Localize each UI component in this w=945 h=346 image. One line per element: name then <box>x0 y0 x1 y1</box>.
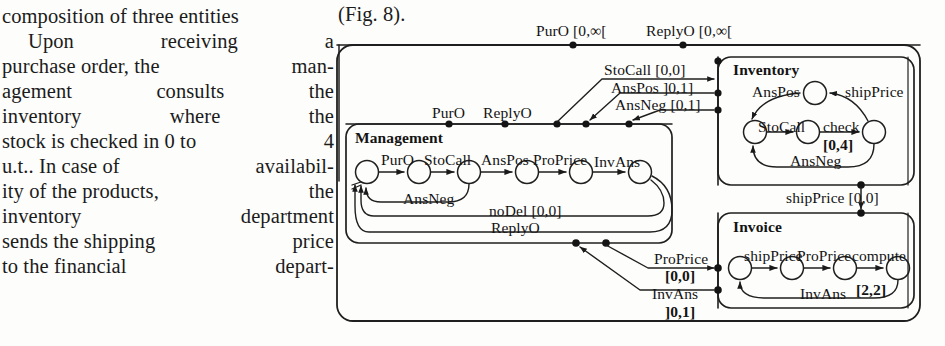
text-word: availabil- <box>256 156 334 176</box>
label-inv2-t-compute-interval: [2,2] <box>856 281 886 299</box>
label-shipprice-connector: shipPrice [0,0] <box>786 189 879 207</box>
component-title-invoice: Invoice <box>733 218 782 236</box>
label-inv-t-check: check <box>823 118 860 136</box>
text-line-7: u.t.. In case of availabil- <box>2 156 334 176</box>
text-word: receiving <box>161 31 238 51</box>
transition-interval: [0,0] <box>531 202 561 219</box>
text-word: man- <box>291 56 334 76</box>
text-word: u.t.. In case of <box>2 156 120 176</box>
label-bus-replyo: ReplyO <box>483 104 532 122</box>
text-line-content: composition of three entities <box>2 5 239 27</box>
label-inv2-t-compute: compute <box>852 247 906 265</box>
label-mgmt-t-ansneg: AnsNeg <box>403 190 454 208</box>
text-line-1: composition of three entities <box>2 6 334 26</box>
label-mgmt-t-puro: PurO <box>381 151 414 169</box>
label-mgmt-t-nodel: noDel [0,0] <box>489 202 562 220</box>
label-proprice-connector-interval: [0,0] <box>665 267 695 285</box>
transition-name: noDel <box>489 202 527 219</box>
label-replyo-outer-port: ReplyO [0,∞[ <box>646 22 732 40</box>
label-mgmt-t-proprice: ProPrice <box>533 151 587 169</box>
text-word: the <box>309 181 334 201</box>
label-puro-outer-port: PurO [0,∞[ <box>536 22 607 40</box>
text-line-2: Upon receiving a <box>2 31 334 51</box>
label-inv2-t-invans: InvAns <box>800 285 846 303</box>
text-word: the <box>309 81 334 101</box>
text-line-9: inventory department <box>2 206 334 226</box>
text-word: agement <box>2 81 72 101</box>
page-root: composition of three entities Upon recei… <box>0 0 945 346</box>
text-word: ity of the products, <box>2 181 159 201</box>
text-word: inventory <box>2 206 81 226</box>
figure-reference: (Fig. 8). <box>338 4 406 24</box>
label-anspos-connector: AnsPos ]0,1] <box>611 79 693 97</box>
text-word: depart- <box>275 256 334 276</box>
label-inv-t-shipprice: shipPrice <box>845 83 904 101</box>
text-word: to the financial <box>2 256 127 276</box>
component-title-management: Management <box>355 129 443 147</box>
label-stocall-connector: StoCall [0,0] <box>604 61 685 79</box>
text-line-4: agement consults the <box>2 81 334 101</box>
text-line-5: inventory where the <box>2 106 334 126</box>
text-word: a <box>325 31 334 51</box>
label-mgmt-t-replyo: ReplyO <box>491 219 540 237</box>
text-word: price <box>293 231 334 251</box>
label-inv2-t-shipprice: shipPrice <box>744 247 803 265</box>
body-text-column: composition of three entities Upon recei… <box>0 0 336 346</box>
text-word: inventory <box>2 106 81 126</box>
label-inv-t-stocall: StoCall <box>758 118 805 136</box>
text-line-10: sends the shipping price <box>2 231 334 251</box>
label-ansneg-connector: AnsNeg [0,1] <box>615 96 701 114</box>
connector-interval: [0,0] <box>849 189 879 206</box>
text-word: consults <box>156 81 224 101</box>
connector-name: AnsPos <box>611 79 659 96</box>
label-proprice-connector: ProPrice <box>654 250 708 268</box>
text-line-6: stock is checked in 0 to 4 <box>2 131 334 151</box>
label-bus-puro: PurO <box>432 104 465 122</box>
text-line-8: ity of the products, the <box>2 181 334 201</box>
text-word: Upon <box>28 31 74 51</box>
label-inv-t-ansneg: AnsNeg <box>790 152 841 170</box>
connector-interval: [0,0] <box>655 61 685 78</box>
text-line-11: to the financial depart- <box>2 256 334 276</box>
label-invans-connector: InvAns <box>652 285 698 303</box>
label-inv2-t-proprice: ProPrice <box>797 247 851 265</box>
connector-name: shipPrice <box>786 189 845 206</box>
text-word: where <box>170 106 221 126</box>
connector-interval: ]0,1] <box>663 79 693 96</box>
text-word: department <box>241 206 334 226</box>
text-line-3: purchase order, the man- <box>2 56 334 76</box>
label-inv-t-anspos: AnsPos <box>752 83 800 101</box>
label-mgmt-t-stocall: StoCall <box>424 151 471 169</box>
text-word: purchase order, the <box>2 56 160 76</box>
text-word: sends the shipping <box>2 231 155 251</box>
connector-name: AnsNeg <box>615 96 666 113</box>
connector-interval: [0,1] <box>670 96 700 113</box>
component-title-inventory: Inventory <box>733 61 799 79</box>
label-mgmt-t-anspos: AnsPos <box>481 151 529 169</box>
text-word: the <box>309 106 334 126</box>
text-word: 4 <box>324 131 334 151</box>
text-word: stock is checked in 0 to <box>2 131 196 151</box>
label-invans-connector-interval: ]0,1] <box>665 303 695 321</box>
label-mgmt-t-invans: InvAns <box>594 153 640 171</box>
connector-name: StoCall <box>604 61 651 78</box>
